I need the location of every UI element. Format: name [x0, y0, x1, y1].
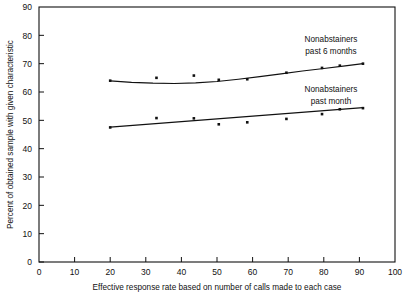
series-1-point-8 [362, 107, 365, 110]
x-tick-label-10: 10 [70, 267, 80, 277]
x-tick-label-20: 20 [105, 267, 115, 277]
series-1-point-3 [217, 123, 220, 126]
series-0-point-0 [109, 79, 112, 82]
y-tick-label-60: 60 [23, 87, 33, 97]
y-tick-label-80: 80 [23, 31, 33, 41]
series-1-point-0 [109, 126, 112, 129]
x-tick-label-30: 30 [141, 267, 151, 277]
x-tick-label-60: 60 [248, 267, 258, 277]
y-tick-label-70: 70 [23, 59, 33, 69]
x-tick-label-100: 100 [388, 267, 402, 277]
y-tick-label-0: 0 [27, 257, 32, 267]
series-0-point-3 [217, 79, 220, 82]
y-tick-label-10: 10 [23, 229, 33, 239]
y-tick-label-90: 90 [23, 2, 33, 12]
x-tick-label-80: 80 [319, 267, 329, 277]
y-tick-label-50: 50 [23, 116, 33, 126]
series-0-point-1 [155, 77, 158, 80]
chart-figure: 0102030405060708090010203040506070809010… [0, 0, 412, 298]
series-label-1-line2: past month [311, 97, 352, 106]
series-1-point-5 [285, 118, 288, 121]
y-tick-label-20: 20 [23, 201, 33, 211]
series-1-point-2 [193, 117, 196, 120]
series-0-point-5 [285, 71, 288, 74]
plot-frame [39, 7, 395, 262]
series-0-point-7 [339, 64, 342, 67]
x-tick-label-0: 0 [37, 267, 42, 277]
x-axis-title: Effective response rate based on number … [93, 283, 342, 292]
scatter-chart: 0102030405060708090010203040506070809010… [0, 0, 412, 298]
series-0-point-2 [193, 74, 196, 77]
series-label-1-line1: Nonabstainers [305, 85, 358, 94]
series-1-point-6 [321, 113, 324, 116]
x-tick-label-90: 90 [355, 267, 365, 277]
y-axis-title: Percent of obtained sample with given ch… [6, 40, 15, 229]
series-1-point-1 [155, 117, 158, 120]
series-0-point-6 [321, 67, 324, 70]
series-label-0-line2: past 6 months [305, 47, 356, 56]
y-tick-label-40: 40 [23, 144, 33, 154]
series-0-point-4 [246, 78, 249, 81]
y-tick-label-30: 30 [23, 172, 33, 182]
x-tick-label-40: 40 [177, 267, 187, 277]
x-tick-label-70: 70 [283, 267, 293, 277]
series-0-point-8 [362, 62, 365, 65]
series-1-point-4 [246, 121, 249, 124]
series-label-0-line1: Nonabstainers [305, 35, 358, 44]
x-tick-label-50: 50 [212, 267, 222, 277]
series-1-point-7 [339, 108, 342, 111]
